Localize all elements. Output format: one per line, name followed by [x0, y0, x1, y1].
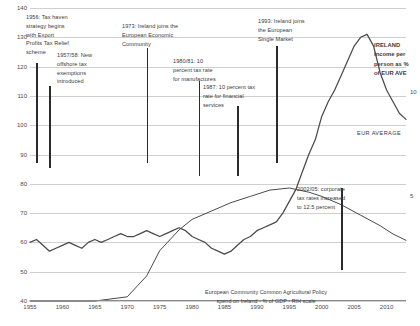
annotation-1993: 1993: Ireland joins the European Single …: [258, 17, 328, 43]
annotation-1980-81: 1980/81: 10 percent tax rate for manufac…: [173, 57, 235, 83]
annotation-1987: 1987: 10 percent tax rate for financial …: [203, 83, 273, 109]
x-tick-1970: 1970: [121, 304, 134, 310]
series-label-cap: European Community Common Agricultural P…: [183, 288, 349, 305]
event-marker-a3: [147, 48, 149, 163]
x-tick-1975: 1975: [153, 304, 166, 310]
x-tick-1965: 1965: [88, 304, 101, 310]
event-marker-a1: [36, 63, 38, 163]
chart-canvas: 405060708090100110120130140 195519601965…: [0, 0, 420, 326]
y-tick-80: 80: [20, 181, 30, 187]
annotation-2002-05: 2002/05: corporate tax rates increased t…: [297, 185, 371, 211]
x-tick-2010: 2010: [380, 304, 393, 310]
series-label-eur-average: EUR AVERAGE: [357, 130, 401, 136]
annotation-1973: 1973: Ireland joins the European Economi…: [122, 22, 202, 48]
y-tick-60: 60: [20, 239, 30, 245]
y-tick-70: 70: [20, 210, 30, 216]
series-label-ireland: IRELAND income per person as % of EUR AV…: [374, 41, 420, 78]
right-tick-10: 10: [410, 89, 417, 95]
y-tick-120: 120: [17, 64, 30, 70]
y-tick-110: 110: [17, 93, 30, 99]
x-tick-1955: 1955: [23, 304, 36, 310]
y-tick-90: 90: [20, 152, 30, 158]
y-tick-50: 50: [20, 269, 30, 275]
event-marker-a5: [237, 106, 239, 176]
x-tick-1960: 1960: [56, 304, 69, 310]
event-marker-a6: [276, 46, 278, 163]
right-tick-5: 5: [410, 193, 413, 199]
annotation-1957-58: 1957/58: New offshore tax exemptions int…: [57, 51, 117, 86]
event-marker-a4: [199, 81, 201, 176]
event-marker-a2: [49, 86, 51, 168]
y-tick-140: 140: [17, 5, 30, 11]
x-tick-2005: 2005: [347, 304, 360, 310]
y-tick-100: 100: [17, 122, 30, 128]
